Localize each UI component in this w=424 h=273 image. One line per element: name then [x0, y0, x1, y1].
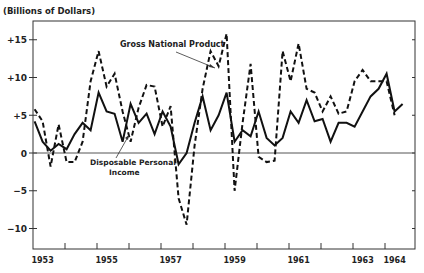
x-tick-label: 1964: [383, 256, 406, 265]
y-tick-label: +5: [13, 111, 27, 121]
gnp-annotation: Gross National Product: [120, 40, 225, 49]
x-tick-label: 1961: [287, 256, 310, 265]
dpi-annotation-line2: Income: [109, 168, 140, 177]
gnp-arrowhead-icon: [209, 64, 215, 68]
x-tick-label: 1963: [351, 256, 373, 265]
dpi-arrowhead-icon: [125, 135, 129, 140]
y-tick-label: +15: [7, 35, 27, 45]
y-axis-units-label: (Billions of Dollars): [3, 6, 95, 16]
x-tick-label: 1957: [159, 256, 181, 265]
y-tick-label: 0: [21, 149, 27, 159]
x-axis: 1953195519571959196119631964: [31, 243, 406, 265]
x-tick-label: 1959: [223, 256, 246, 265]
x-tick-label: 1955: [95, 256, 118, 265]
y-tick-label: −10: [7, 224, 27, 234]
dpi-annotation-line1: Disposable Personal: [90, 158, 176, 167]
plot-frame: [33, 21, 415, 249]
y-tick-label: +10: [7, 73, 27, 83]
chart: (Billions of Dollars) +15+10+50−5−10 195…: [0, 0, 424, 273]
y-tick-label: −5: [13, 186, 27, 196]
x-tick-label: 1953: [31, 256, 53, 265]
